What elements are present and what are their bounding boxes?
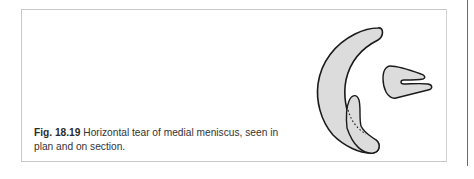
caption-text-line2: plan and on section. bbox=[34, 141, 125, 152]
figure-label: Fig. 18.19 bbox=[34, 127, 80, 138]
meniscus-section-view bbox=[383, 66, 432, 98]
page-margin-rule bbox=[467, 0, 468, 166]
caption-text-line1: Horizontal tear of medial meniscus, seen… bbox=[83, 127, 278, 138]
figure-caption: Fig. 18.19 Horizontal tear of medial men… bbox=[34, 126, 334, 154]
